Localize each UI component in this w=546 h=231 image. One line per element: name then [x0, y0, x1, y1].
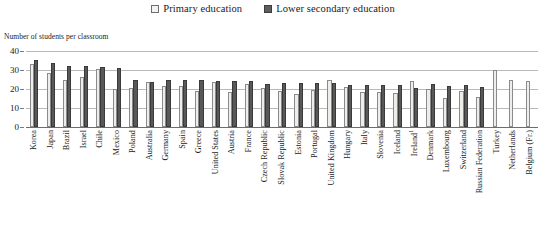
- bar-secondary: [84, 66, 88, 127]
- legend-item-primary-education: Primary education: [151, 4, 242, 15]
- bar-group: [439, 51, 456, 127]
- bar-secondary: [447, 86, 451, 127]
- y-tick-mark-40: [20, 51, 24, 52]
- bar-secondary: [232, 81, 236, 127]
- legend-label-primary-education: Primary education: [163, 4, 242, 15]
- bar-series-container: [26, 51, 538, 127]
- bar-secondary: [348, 85, 352, 127]
- x-axis-label: Iceland: [393, 130, 401, 154]
- x-label-cell: Portugal: [307, 130, 324, 230]
- x-axis-label: Luxembourg: [443, 130, 451, 172]
- bar-group: [241, 51, 258, 127]
- x-axis-label: Poland: [129, 130, 137, 153]
- x-axis-label: Turkey: [493, 130, 501, 153]
- x-label-cell: Spain: [175, 130, 192, 230]
- x-label-cell: Austria: [224, 130, 241, 230]
- bar-secondary: [299, 83, 303, 127]
- bar-secondary: [183, 80, 187, 127]
- x-axis-category-labels: KoreaJapanBrazilIsraelChileMexicoPolandA…: [26, 130, 538, 230]
- x-axis-label: Japan: [47, 130, 55, 149]
- bar-secondary: [67, 66, 71, 127]
- bar-group: [406, 51, 423, 127]
- x-axis-label: Mexico: [113, 130, 121, 155]
- x-label-cell: Australia: [142, 130, 159, 230]
- y-tick-label-20: 20: [10, 85, 19, 94]
- x-label-cell: Israel: [76, 130, 93, 230]
- legend-swatch-primary-education: [151, 5, 159, 13]
- x-label-cell: Hungary: [340, 130, 357, 230]
- x-axis-label: United States: [212, 130, 220, 174]
- x-axis-label: Hungary: [344, 130, 352, 159]
- x-label-cell: Belgium (Fr.): [521, 130, 538, 230]
- x-axis-label: Brazil: [63, 130, 71, 150]
- bar-primary: [509, 80, 513, 128]
- y-tick-label-30: 30: [10, 66, 19, 75]
- x-label-cell: Poland: [125, 130, 142, 230]
- bar-group: [224, 51, 241, 127]
- x-label-cell: Switzerland: [455, 130, 472, 230]
- bar-group: [422, 51, 439, 127]
- y-tick-mark-20: [20, 89, 24, 90]
- bar-primary: [493, 70, 497, 127]
- x-axis-label: Netherlands: [509, 130, 517, 170]
- x-axis-label: Greece: [195, 130, 203, 153]
- x-axis-label: Korea: [30, 130, 38, 150]
- x-axis-label: Switzerland: [460, 130, 468, 169]
- x-label-cell: Slovenia: [373, 130, 390, 230]
- x-label-cell: Russian Federation: [472, 130, 489, 230]
- x-axis-label: Ireland1: [409, 130, 419, 156]
- x-label-cell: Denmark: [422, 130, 439, 230]
- bar-group: [307, 51, 324, 127]
- bar-group: [76, 51, 93, 127]
- x-label-cell: Korea: [26, 130, 43, 230]
- x-label-cell: Czech Republic: [257, 130, 274, 230]
- x-label-cell: Brazil: [59, 130, 76, 230]
- x-axis-label: France: [245, 130, 253, 152]
- legend-swatch-lower-secondary-education: [264, 5, 272, 13]
- x-axis-label: Austria: [228, 130, 236, 154]
- x-label-cell: Japan: [43, 130, 60, 230]
- bar-group: [92, 51, 109, 127]
- bar-secondary: [150, 82, 154, 127]
- bar-secondary: [315, 83, 319, 127]
- bar-group: [158, 51, 175, 127]
- x-axis-label: Germany: [162, 130, 170, 161]
- x-label-cell: United Kingdom: [323, 130, 340, 230]
- x-axis-label: Slovak Republic: [278, 130, 286, 185]
- bar-secondary: [133, 80, 137, 127]
- bar-secondary: [199, 80, 203, 128]
- bar-group: [356, 51, 373, 127]
- x-label-cell: Greece: [191, 130, 208, 230]
- x-axis-label: Slovenia: [377, 130, 385, 159]
- bar-group: [175, 51, 192, 127]
- bar-group: [191, 51, 208, 127]
- bar-group: [389, 51, 406, 127]
- x-label-cell: Turkey: [488, 130, 505, 230]
- x-label-cell: Mexico: [109, 130, 126, 230]
- bar-secondary: [332, 83, 336, 127]
- bar-group: [257, 51, 274, 127]
- footnote-marker: 1: [408, 130, 414, 133]
- bar-secondary: [480, 87, 484, 127]
- bar-secondary: [34, 60, 38, 127]
- bar-group: [290, 51, 307, 127]
- bar-group: [472, 51, 489, 127]
- y-tick-label-40: 40: [10, 47, 19, 56]
- bar-group: [323, 51, 340, 127]
- x-axis-label: United Kingdom: [327, 130, 335, 186]
- bar-secondary: [414, 88, 418, 127]
- x-label-cell: United States: [208, 130, 225, 230]
- x-axis-label: Denmark: [427, 130, 435, 161]
- bar-secondary: [216, 81, 220, 127]
- x-axis-label: Israel: [80, 130, 88, 148]
- x-label-cell: Slovak Republic: [274, 130, 291, 230]
- bar-group: [142, 51, 159, 127]
- legend-label-lower-secondary-education: Lower secondary education: [276, 4, 395, 15]
- x-axis-label: Czech Republic: [261, 130, 269, 182]
- bar-group: [208, 51, 225, 127]
- x-axis-label: Spain: [179, 130, 187, 149]
- bar-secondary: [166, 80, 170, 127]
- x-axis-label: Chile: [96, 130, 104, 148]
- x-label-cell: Luxembourg: [439, 130, 456, 230]
- x-axis-label: Italy: [360, 130, 368, 145]
